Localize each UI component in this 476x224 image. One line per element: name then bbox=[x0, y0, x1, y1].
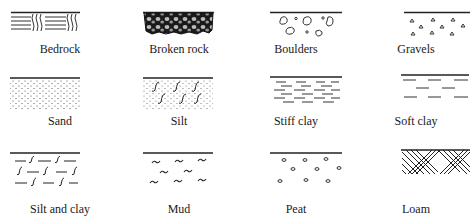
legend-label: Stiff clay bbox=[236, 114, 356, 129]
loam-symbol-icon bbox=[356, 146, 476, 188]
legend-label: Bedrock bbox=[0, 42, 120, 57]
legend-item-bedrock: Bedrock bbox=[0, 0, 120, 74]
legend-label: Silt bbox=[119, 114, 239, 129]
legend-label: Silt and clay bbox=[0, 202, 120, 217]
legend-item-stiff-clay: Stiff clay bbox=[236, 70, 356, 144]
legend-label: Sand bbox=[0, 114, 120, 129]
legend-item-mud: Mud bbox=[119, 146, 239, 220]
boulders-symbol-icon bbox=[236, 0, 356, 40]
legend-item-silt: Silt bbox=[119, 70, 239, 144]
legend-item-broken-rock: Broken rock bbox=[119, 0, 239, 74]
legend-item-peat: Peat bbox=[236, 146, 356, 220]
peat-symbol-icon bbox=[236, 146, 356, 188]
legend-label: Soft clay bbox=[356, 114, 476, 129]
legend-item-silt-and-clay: Silt and clay bbox=[0, 146, 120, 220]
legend-item-soft-clay: Soft clay bbox=[356, 70, 476, 144]
legend-label: Boulders bbox=[236, 42, 356, 57]
stiff-clay-symbol-icon bbox=[236, 70, 356, 112]
bedrock-symbol-icon bbox=[0, 0, 120, 40]
legend-label: Mud bbox=[119, 202, 239, 217]
legend-label: Peat bbox=[236, 202, 356, 217]
sand-symbol-icon bbox=[0, 70, 120, 112]
mud-symbol-icon bbox=[119, 146, 239, 188]
broken-rock-symbol-icon bbox=[119, 0, 239, 40]
legend-label: Broken rock bbox=[119, 42, 239, 57]
silt-and-clay-symbol-icon bbox=[0, 146, 120, 188]
soft-clay-symbol-icon bbox=[356, 70, 476, 112]
legend-label: Gravels bbox=[356, 42, 476, 57]
legend-item-gravels: Gravels bbox=[356, 0, 476, 74]
legend-item-boulders: Boulders bbox=[236, 0, 356, 74]
legend-item-loam: Loam bbox=[356, 146, 476, 220]
silt-symbol-icon bbox=[119, 70, 239, 112]
gravels-symbol-icon bbox=[356, 0, 476, 40]
legend-label: Loam bbox=[356, 202, 476, 217]
legend-item-sand: Sand bbox=[0, 70, 120, 144]
